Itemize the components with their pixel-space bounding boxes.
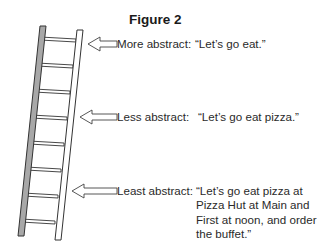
ladder-left-rail: [18, 26, 46, 236]
label-least-abstract: Least abstract:: [117, 184, 193, 198]
arrow-icon-least-abstract: [72, 184, 117, 198]
figure-title: Figure 2: [129, 12, 182, 27]
quote-least-abstract: “Let’s go eat pizza at Pizza Hut at Main…: [196, 184, 317, 241]
arrow-icon-less-abstract: [80, 110, 117, 124]
quote-less-abstract: “Let’s go eat pizza.”: [198, 110, 299, 124]
quote-more-abstract: “Let’s go eat.”: [195, 37, 266, 51]
label-less-abstract: Less abstract:: [117, 110, 189, 124]
label-more-abstract: More abstract:: [117, 37, 191, 51]
arrow-icon-more-abstract: [88, 37, 117, 51]
ladder-right-rail: [55, 30, 83, 240]
